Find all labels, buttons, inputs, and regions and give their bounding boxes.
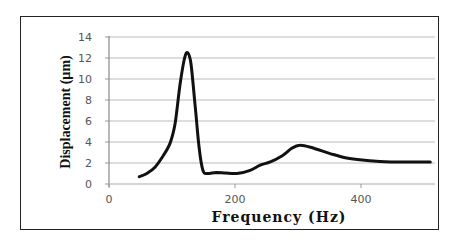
y-tick-label: 10 [78, 73, 92, 86]
y-tick-label: 12 [78, 52, 92, 65]
y-tick-label: 0 [85, 178, 92, 191]
line-chart: 02468101214 0200400 Displacement (µm) Fr… [0, 0, 451, 246]
displacement-curve [139, 53, 430, 177]
x-tick-label: 400 [351, 193, 372, 206]
x-axis-label: Frequency (Hz) [212, 209, 347, 225]
y-tick-label: 8 [85, 94, 92, 107]
x-tick-label: 200 [225, 193, 246, 206]
y-tick-labels: 02468101214 [78, 31, 92, 191]
axes [105, 36, 435, 188]
x-tick-labels: 0200400 [106, 193, 372, 206]
gridlines [109, 37, 435, 163]
y-tick-label: 6 [85, 115, 92, 128]
x-tick-label: 0 [106, 193, 113, 206]
y-tick-label: 14 [78, 31, 92, 44]
y-axis-label: Displacement (µm) [58, 55, 74, 169]
y-tick-label: 2 [85, 157, 92, 170]
y-tick-label: 4 [85, 136, 92, 149]
